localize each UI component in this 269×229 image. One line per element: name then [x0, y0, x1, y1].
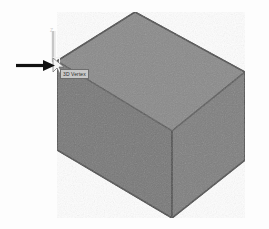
pointer-arrow — [16, 60, 55, 71]
3d-viewport[interactable] — [0, 0, 269, 229]
box-solid[interactable] — [57, 12, 245, 218]
screenshot-root: Z 3D Vertex — [0, 0, 269, 229]
snap-tooltip: 3D Vertex — [60, 69, 89, 79]
z-axis-label: Z — [50, 27, 53, 33]
